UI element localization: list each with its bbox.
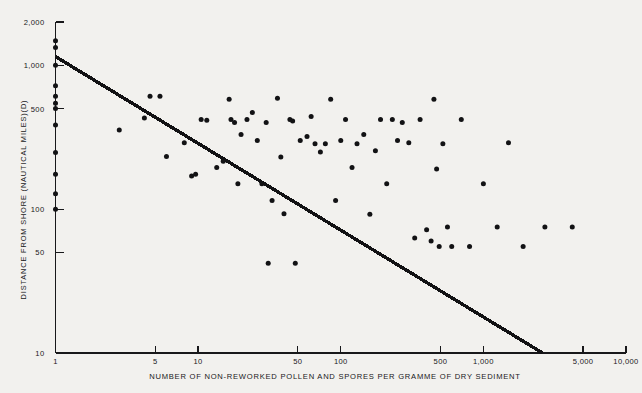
- data-point: [361, 132, 366, 137]
- data-point: [182, 140, 187, 145]
- y-axis-title: DISTANCE FROM SHORE (NAUTICAL MILES)(D): [19, 80, 28, 320]
- data-point: [298, 138, 303, 143]
- x-tick-label: 5: [153, 357, 158, 366]
- x-tick-label: 100: [334, 357, 348, 366]
- y-tick-label: 50: [0, 248, 45, 257]
- x-tick-label: 1,000: [473, 357, 494, 366]
- data-point: [355, 141, 360, 146]
- data-point: [250, 110, 255, 115]
- data-point: [305, 134, 310, 139]
- data-point: [293, 261, 298, 266]
- x-tick-label: 1: [53, 357, 58, 366]
- data-point: [214, 165, 219, 170]
- data-point: [459, 117, 464, 122]
- data-point: [309, 114, 314, 119]
- data-point: [53, 172, 58, 177]
- data-point: [53, 150, 58, 155]
- plot-area: [0, 0, 642, 393]
- data-point: [570, 225, 575, 230]
- x-tick-label: 10: [194, 357, 203, 366]
- data-point: [412, 236, 417, 241]
- x-tick-label: 50: [293, 357, 302, 366]
- data-point: [395, 138, 400, 143]
- y-tick-label: 2,000: [0, 18, 45, 27]
- data-point: [521, 244, 526, 249]
- data-point: [418, 117, 423, 122]
- data-point: [373, 148, 378, 153]
- x-axis-title: NUMBER OF NON-REWORKED POLLEN AND SPORES…: [55, 372, 615, 381]
- data-point: [255, 138, 260, 143]
- data-point: [53, 122, 58, 127]
- data-point: [449, 244, 454, 249]
- data-point: [437, 244, 442, 249]
- data-point: [424, 227, 429, 232]
- data-point: [406, 140, 411, 145]
- data-point: [235, 181, 240, 186]
- data-point: [434, 167, 439, 172]
- data-point: [227, 97, 232, 102]
- y-tick-label: 10: [0, 349, 45, 358]
- data-point: [244, 117, 249, 122]
- data-point: [53, 191, 58, 196]
- data-point: [53, 83, 58, 88]
- chart-figure: DISTANCE FROM SHORE (NAUTICAL MILES)(D) …: [0, 0, 642, 393]
- data-point: [506, 140, 511, 145]
- data-point: [400, 120, 405, 125]
- data-point: [429, 239, 434, 244]
- axes: [56, 22, 627, 353]
- regression-line: [56, 57, 543, 353]
- x-tick-label: 500: [434, 357, 448, 366]
- tick-marks: [56, 22, 627, 353]
- data-point: [281, 211, 286, 216]
- trend-line: [56, 57, 543, 353]
- data-point: [318, 149, 323, 154]
- data-point: [53, 38, 58, 43]
- y-tick-label: 500: [0, 104, 45, 113]
- data-point: [290, 119, 295, 124]
- x-tick-label: 10,000: [613, 357, 638, 366]
- data-point: [157, 94, 162, 99]
- y-tick-label: 1,000: [0, 61, 45, 70]
- y-tick-label: 100: [0, 205, 45, 214]
- data-point: [264, 120, 269, 125]
- data-point: [53, 63, 58, 68]
- data-point: [266, 261, 271, 266]
- data-point: [193, 172, 198, 177]
- data-point: [232, 120, 237, 125]
- data-point: [384, 181, 389, 186]
- data-point: [142, 116, 147, 121]
- data-point: [117, 128, 122, 133]
- data-point: [440, 141, 445, 146]
- data-point: [164, 154, 169, 159]
- data-point: [53, 94, 58, 99]
- data-point: [53, 207, 58, 212]
- data-point: [333, 198, 338, 203]
- data-point: [275, 96, 280, 101]
- data-points: [53, 38, 575, 266]
- data-point: [328, 97, 333, 102]
- data-point: [204, 118, 209, 123]
- data-point: [542, 225, 547, 230]
- data-point: [53, 45, 58, 50]
- data-point: [467, 244, 472, 249]
- data-point: [350, 165, 355, 170]
- data-point: [481, 181, 486, 186]
- data-point: [343, 117, 348, 122]
- data-point: [278, 155, 283, 160]
- data-point: [270, 198, 275, 203]
- data-point: [239, 132, 244, 137]
- data-point: [221, 159, 226, 164]
- data-point: [431, 97, 436, 102]
- data-point: [53, 101, 58, 106]
- data-point: [259, 181, 264, 186]
- data-point: [338, 138, 343, 143]
- data-point: [53, 106, 58, 111]
- data-point: [323, 141, 328, 146]
- data-point: [313, 141, 318, 146]
- data-point: [390, 117, 395, 122]
- x-tick-label: 5,000: [573, 357, 594, 366]
- data-point: [495, 225, 500, 230]
- data-point: [199, 117, 204, 122]
- data-point: [148, 94, 153, 99]
- data-point: [378, 117, 383, 122]
